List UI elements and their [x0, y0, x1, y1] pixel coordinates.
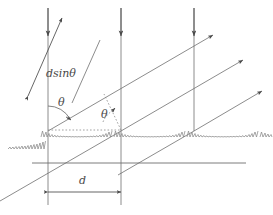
path-difference-label: dsinθ — [46, 67, 76, 80]
diffracted-ray-1 — [48, 35, 213, 131]
diagram-canvas — [0, 0, 273, 215]
incident-angle-label: θ — [58, 96, 65, 109]
diffracted-angle-label: θ — [101, 108, 108, 121]
slit-spacing-label: d — [79, 174, 86, 187]
angle-arc-diffracted-head — [112, 108, 115, 112]
diffracted-ray-3 — [194, 91, 262, 131]
path-difference-tick — [72, 40, 100, 103]
path-difference-arrow — [28, 18, 62, 96]
diffracted-ray-tail-3 — [118, 131, 194, 175]
diffracted-ray-tail-2 — [0, 131, 121, 201]
diffracted-ray-2 — [121, 60, 243, 131]
diffraction-grating-diagram: dsinθ θ θ d — [0, 0, 273, 215]
